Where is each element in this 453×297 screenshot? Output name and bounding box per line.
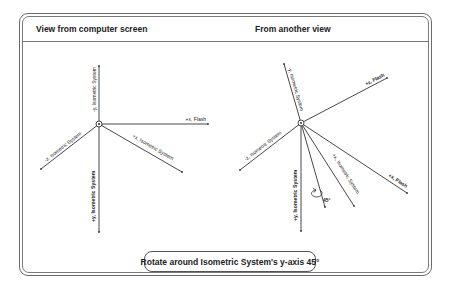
right-z-flash-line	[301, 78, 387, 123]
right-origin-icon	[298, 120, 304, 126]
right-label-pos-x-iso: +x, Isometric System	[331, 152, 361, 194]
right-pos-x-iso-line	[301, 123, 354, 206]
right-label-neg-z: -z, Isometric System	[243, 129, 283, 161]
left-pos-x-iso-line	[99, 124, 182, 172]
right-neg-z-line	[240, 123, 301, 170]
right-label-x-flash: +x, Flash	[387, 172, 408, 189]
left-axes	[41, 66, 208, 232]
left-origin-icon	[96, 121, 102, 127]
left-label-x-flash: +x, Flash	[186, 116, 207, 122]
left-label-neg-y: -y, Isometric System	[91, 67, 97, 112]
left-label-neg-z: -z, Isometric System	[43, 130, 82, 163]
right-rotated-line	[301, 123, 325, 207]
caption-pill: Rotate around Isometric System's y-axis …	[144, 251, 316, 272]
left-label-pos-y: +y, Isometric System	[90, 170, 96, 222]
rotation-angle-label: 45°	[323, 197, 331, 203]
left-neg-z-line	[41, 124, 99, 169]
right-label-pos-y: +y, Isometric System	[292, 169, 298, 221]
